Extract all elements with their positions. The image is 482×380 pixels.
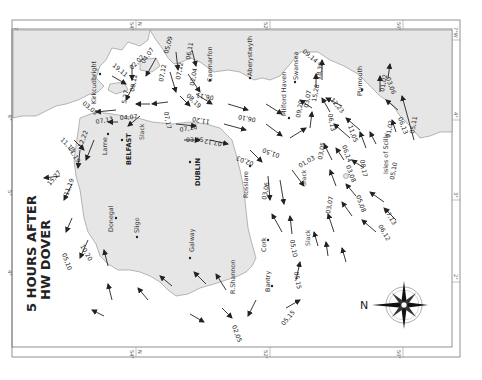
svg-text:Slack: Slack: [304, 229, 311, 246]
svg-text:4°: 4°: [453, 112, 459, 118]
svg-text:03,05: 03,05: [186, 136, 204, 143]
svg-text:Sligo: Sligo: [133, 217, 141, 233]
svg-text:11,19: 11,19: [62, 177, 75, 196]
svg-text:06,10: 06,10: [237, 114, 256, 124]
svg-text:06,12: 06,12: [377, 223, 392, 242]
svg-text:Isles of Scilly: Isles of Scilly: [382, 133, 390, 174]
svg-text:Rosslare: Rosslare: [242, 171, 250, 198]
svg-text:Aberystwyth: Aberystwyth: [246, 36, 254, 76]
svg-text:Cork: Cork: [260, 237, 268, 252]
compass-north-label: N: [360, 299, 368, 312]
compass-rose: N: [360, 281, 428, 329]
svg-text:05,15: 05,15: [293, 271, 303, 290]
svg-text:06,13: 06,13: [327, 113, 337, 132]
svg-text:03,05: 03,05: [316, 141, 326, 160]
svg-text:01,03: 01,03: [297, 154, 316, 169]
svg-text:N: N: [137, 350, 143, 354]
svg-text:01,02: 01,02: [384, 119, 394, 138]
svg-text:18,38: 18,38: [314, 61, 324, 80]
svg-text:11,05: 11,05: [347, 124, 360, 143]
svg-text:4°: 4°: [7, 270, 13, 276]
svg-text:Swansea: Swansea: [292, 51, 300, 80]
chart-title: 5 HOURS AFTER HW DOVER: [24, 195, 53, 312]
svg-text:Milford Haven: Milford Haven: [280, 72, 288, 116]
svg-text:50°: 50°: [396, 350, 402, 359]
svg-text:3°: 3°: [453, 192, 459, 198]
svg-text:03,06: 03,06: [260, 181, 270, 200]
svg-text:BELFAST: BELFAST: [125, 133, 133, 165]
svg-text:02,05: 02,05: [231, 324, 244, 343]
svg-text:06,14: 06,14: [341, 144, 354, 163]
svg-text:03,07: 03,07: [302, 89, 312, 108]
svg-text:05,15: 05,15: [279, 309, 296, 327]
svg-text:Slack: Slack: [138, 123, 145, 140]
svg-text:Slack: Slack: [300, 169, 307, 186]
land-isles-of-scilly: [344, 174, 349, 179]
svg-text:Galway: Galway: [188, 228, 196, 252]
svg-text:Bantry: Bantry: [264, 271, 272, 292]
svg-text:05,10: 05,10: [61, 252, 74, 271]
svg-text:07,13: 07,13: [383, 207, 398, 226]
svg-text:08,12: 08,12: [128, 73, 138, 92]
svg-text:52°: 52°: [263, 350, 269, 359]
svg-text:05,08: 05,08: [355, 194, 368, 213]
svg-text:54°: 54°: [129, 350, 135, 359]
svg-text:HW DOVER: HW DOVER: [38, 220, 53, 300]
svg-text:Kirkcudbright: Kirkcudbright: [90, 61, 98, 104]
svg-text:5°: 5°: [7, 190, 13, 196]
svg-text:7°W: 7°W: [453, 27, 459, 38]
svg-text:R.Shannon: R.Shannon: [229, 260, 237, 294]
svg-text:12,23: 12,23: [329, 96, 346, 114]
svg-text:Larne: Larne: [101, 137, 109, 155]
svg-text:03,07: 03,07: [324, 195, 334, 214]
svg-text:N: N: [137, 22, 143, 26]
svg-text:02,04: 02,04: [188, 67, 198, 86]
tidal-stream-chart: 7°W 54° N 52° 50° 7°W 54° N 52° 50° 6° 5…: [0, 0, 482, 380]
svg-text:05,10: 05,10: [289, 239, 299, 258]
svg-text:5,27: 5,27: [120, 89, 129, 104]
svg-text:08,17: 08,17: [359, 159, 369, 178]
svg-text:2°: 2°: [453, 274, 459, 280]
svg-text:Caernarfon: Caernarfon: [206, 46, 214, 82]
svg-text:5 HOURS AFTER: 5 HOURS AFTER: [24, 195, 39, 312]
svg-text:10,20: 10,20: [79, 243, 94, 262]
svg-text:07,12: 07,12: [174, 61, 184, 80]
svg-text:19,11: 19,11: [111, 61, 129, 78]
svg-text:6°: 6°: [7, 115, 13, 121]
svg-text:Donegal: Donegal: [107, 205, 115, 232]
svg-text:Plymouth: Plymouth: [356, 66, 364, 96]
svg-text:01,50: 01,50: [261, 147, 280, 160]
svg-text:DUBLIN: DUBLIN: [194, 158, 202, 186]
